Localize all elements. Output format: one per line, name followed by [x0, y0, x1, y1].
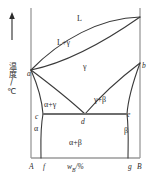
phase-label-gamma-plus-beta: γ+β [94, 96, 106, 104]
x-axis-right-endpoint-label: B [137, 163, 142, 171]
curve-gamma-alpha-boundary [31, 70, 43, 114]
y-axis-arrow-icon [9, 12, 15, 40]
curve-gamma-beta-boundary [127, 63, 140, 114]
phase-label-liquid: L [77, 15, 82, 23]
phase-label-alpha: α [34, 125, 38, 133]
phase-label-beta: β [124, 127, 128, 135]
phase-label-gamma: γ [83, 63, 87, 71]
phase-diagram-figure: 温度/℃ L L+γ γ α+γ γ+β α β α+β a b c d e f… [0, 0, 157, 181]
phase-diagram-canvas [0, 0, 157, 181]
point-label-f: f [43, 163, 45, 171]
phase-label-alpha-plus-beta: α+β [69, 139, 82, 147]
point-label-a: a [27, 70, 31, 78]
curve-alpha-solvus [41, 114, 43, 158]
phase-label-alpha-plus-gamma: α+γ [44, 101, 56, 109]
x-axis-title: wB/% [67, 163, 84, 173]
point-label-d: d [81, 118, 85, 126]
point-label-g: g [128, 163, 132, 171]
x-axis-title-unit: /% [75, 162, 83, 171]
phase-label-liquid-plus-gamma: L+γ [57, 39, 70, 47]
point-label-c: c [35, 113, 38, 121]
curve-beta-solvus [127, 114, 128, 158]
point-label-e: e [127, 111, 130, 119]
x-axis-left-endpoint-label: A [29, 163, 34, 171]
point-label-b: b [142, 62, 146, 70]
y-axis-title: 温度/℃ [1, 62, 15, 96]
